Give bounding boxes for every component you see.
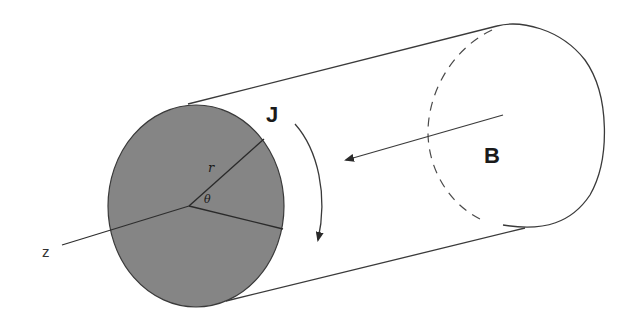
current-direction-arrow — [295, 124, 322, 240]
label-b: B — [484, 143, 500, 168]
cylinder-front-face — [108, 105, 284, 307]
far-end-hidden-arc — [428, 30, 492, 220]
label-r: r — [208, 160, 215, 175]
far-end-arc — [497, 24, 604, 227]
magnetic-field-arrow — [346, 115, 503, 160]
cylinder-diagram: J B r θ z — [0, 0, 634, 324]
label-j: J — [266, 102, 278, 127]
label-theta: θ — [204, 193, 211, 206]
label-z: z — [42, 243, 50, 260]
